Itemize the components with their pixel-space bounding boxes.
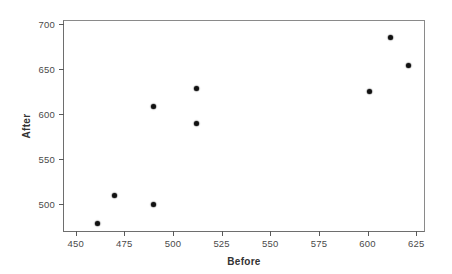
x-axis-title: Before: [63, 256, 425, 267]
y-axis-tick: [59, 204, 64, 205]
data-point: [388, 35, 393, 40]
x-axis-tick-label: 525: [213, 238, 229, 249]
y-axis-tick-label: 600: [39, 108, 55, 119]
x-axis-tick: [368, 231, 369, 236]
x-axis-tick-label: 600: [359, 238, 375, 249]
y-axis-tick-label: 650: [39, 63, 55, 74]
x-axis-tick-label: 625: [408, 238, 424, 249]
y-axis-tick: [59, 114, 64, 115]
scatter-plot-figure: 500550600650700450475500525550575600625 …: [0, 0, 452, 274]
x-axis-tick: [222, 231, 223, 236]
y-axis-tick-label: 700: [39, 18, 55, 29]
x-axis-tick: [124, 231, 125, 236]
y-axis-tick: [59, 159, 64, 160]
x-axis-tick-label: 500: [165, 238, 181, 249]
x-axis-tick-label: 575: [311, 238, 327, 249]
plot-area: 500550600650700450475500525550575600625: [63, 20, 425, 232]
x-axis-tick-label: 550: [262, 238, 278, 249]
x-axis-tick: [416, 231, 417, 236]
y-axis-tick-label: 550: [39, 153, 55, 164]
y-axis-tick: [59, 24, 64, 25]
x-axis-tick-label: 450: [67, 238, 83, 249]
data-point: [151, 202, 156, 207]
data-point: [194, 86, 199, 91]
y-axis-tick-label: 500: [39, 198, 55, 209]
y-axis-tick: [59, 69, 64, 70]
x-axis-tick: [319, 231, 320, 236]
x-axis-tick: [173, 231, 174, 236]
data-point: [406, 63, 411, 68]
x-axis-tick: [76, 231, 77, 236]
data-point: [95, 221, 100, 226]
y-axis-title: After: [21, 114, 32, 139]
data-point: [194, 121, 199, 126]
data-point: [112, 193, 117, 198]
x-axis-tick: [270, 231, 271, 236]
data-point: [151, 104, 156, 109]
data-point: [367, 89, 372, 94]
x-axis-tick-label: 475: [116, 238, 132, 249]
